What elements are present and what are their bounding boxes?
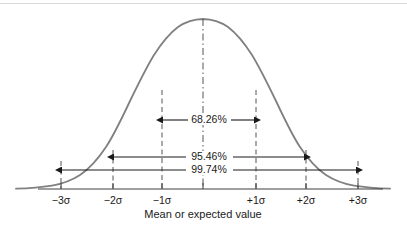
x-axis bbox=[38, 183, 383, 189]
axis-tick-label-minus-2-sigma: −2σ bbox=[104, 195, 122, 206]
sigma2-percentage-label: 95.46% bbox=[188, 151, 230, 162]
normal-distribution-figure: 68.26% 95.46% 99.74% −3σ −2σ −1σ +1σ +2σ… bbox=[0, 0, 407, 237]
axis-tick-label-plus-1-sigma: +1σ bbox=[247, 195, 265, 206]
axis-tick-label-plus-3-sigma: +3σ bbox=[349, 195, 367, 206]
axis-tick-label-plus-2-sigma: +2σ bbox=[297, 195, 315, 206]
axis-tick-label-minus-1-sigma: −1σ bbox=[153, 195, 171, 206]
sigma3-percentage-label: 99.74% bbox=[188, 164, 230, 175]
x-axis-title: Mean or expected value bbox=[144, 209, 261, 220]
sigma1-percentage-label: 68.26% bbox=[188, 114, 230, 125]
axis-tick-label-minus-3-sigma: −3σ bbox=[52, 195, 70, 206]
